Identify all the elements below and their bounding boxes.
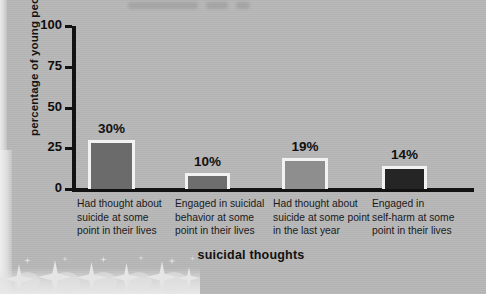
y-axis-line bbox=[72, 26, 76, 190]
y-tick-mark bbox=[65, 147, 72, 150]
bar bbox=[185, 173, 230, 189]
y-tick-label: 50 bbox=[18, 99, 62, 114]
y-tick-mark bbox=[65, 107, 72, 110]
bar-value-label: 30% bbox=[74, 121, 149, 136]
bar bbox=[88, 140, 135, 189]
x-axis-title: suicidal thoughts bbox=[8, 248, 486, 262]
category-label-line: Had thought about bbox=[77, 197, 177, 211]
category-label-line: Engaged in bbox=[372, 197, 472, 211]
bar-value-label: 14% bbox=[368, 147, 441, 162]
category-label-line: self-harm at some bbox=[372, 211, 472, 225]
category-label-line: Had thought about bbox=[273, 197, 376, 211]
bar-chart: percentage of young people 0255075100 30… bbox=[0, 0, 486, 294]
y-tick-label: 100 bbox=[18, 17, 62, 32]
category-label-line: suicide at some bbox=[77, 211, 177, 225]
category-label-line: suicide at some point bbox=[273, 211, 376, 225]
category-label: Engaged in suicidalbehavior at somepoint… bbox=[175, 197, 275, 238]
y-tick-mark bbox=[65, 188, 72, 191]
y-tick-label: 25 bbox=[18, 139, 62, 154]
bar-value-label: 10% bbox=[171, 154, 244, 169]
bar bbox=[382, 166, 427, 189]
bar-value-label: 19% bbox=[268, 139, 342, 154]
category-label-line: Engaged in suicidal bbox=[175, 197, 275, 211]
bar bbox=[282, 158, 328, 189]
category-label: Had thought aboutsuicide at some pointin… bbox=[273, 197, 376, 238]
category-label-line: behavior at some bbox=[175, 211, 275, 225]
y-tick-label: 75 bbox=[18, 58, 62, 73]
y-tick-label: 0 bbox=[18, 180, 62, 195]
category-label: Had thought aboutsuicide at somepoint in… bbox=[77, 197, 177, 238]
category-label-line: in the last year bbox=[273, 224, 376, 238]
category-label-line: point in their lives bbox=[372, 224, 472, 238]
y-tick-mark bbox=[65, 66, 72, 69]
category-label: Engaged inself-harm at somepoint in thei… bbox=[372, 197, 472, 238]
category-label-line: point in their lives bbox=[175, 224, 275, 238]
y-tick-mark bbox=[65, 25, 72, 28]
category-label-line: point in their lives bbox=[77, 224, 177, 238]
